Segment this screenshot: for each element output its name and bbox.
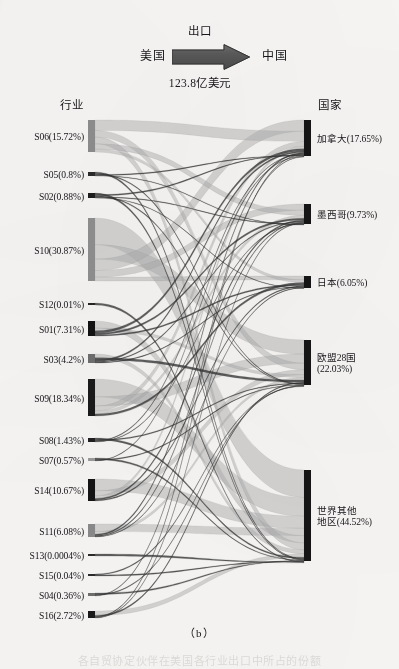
- node-label-ROW-line2: 地区(44.52%): [317, 516, 372, 528]
- column-header-industry: 行业: [60, 96, 84, 112]
- sankey-link: [95, 176, 304, 226]
- sankey-link: [95, 561, 304, 595]
- flow-type-label: 出口: [0, 22, 399, 38]
- node-label-ROW-line1: 世界其他: [317, 504, 372, 516]
- node-label-S13: S13(0.0004%): [30, 550, 85, 561]
- sankey-node-right-CA[interactable]: [304, 120, 311, 156]
- node-label-EU: 欧盟28国(22.03%): [317, 351, 356, 374]
- sankey-node-left-S05[interactable]: [88, 172, 95, 176]
- node-label-S11: S11(6.08%): [39, 525, 84, 536]
- node-label-S14: S14(10.67%): [34, 485, 84, 496]
- node-label-S16: S16(2.72%): [39, 609, 84, 620]
- node-label-S07: S07(0.57%): [39, 454, 84, 465]
- sankey-node-left-S04[interactable]: [88, 593, 95, 596]
- node-label-S01: S01(7.31%): [39, 323, 84, 334]
- sankey-link: [95, 554, 304, 616]
- sankey-node-left-S16[interactable]: [88, 611, 95, 618]
- sankey-node-right-EU[interactable]: [304, 340, 311, 385]
- column-header-country: 国家: [318, 96, 342, 112]
- sankey-node-left-S07[interactable]: [88, 458, 95, 461]
- node-label-S08: S08(1.43%): [39, 435, 84, 446]
- origin-country-label: 美国: [140, 46, 165, 64]
- node-label-S06: S06(15.72%): [34, 131, 84, 142]
- sankey-diagram: 行业 国家 S06(15.72%)S05(0.8%)S02(0.88%)S10(…: [0, 96, 399, 636]
- sankey-node-left-S11[interactable]: [88, 524, 95, 537]
- figure-caption: （b）: [0, 624, 399, 640]
- sankey-links-group: [95, 120, 304, 618]
- node-label-S10: S10(30.87%): [34, 244, 84, 255]
- cut-off-caption-below: 各自贸协定伙伴在美国各行业出口中所占的份额: [0, 652, 399, 668]
- node-label-EU-line2: (22.03%): [317, 363, 356, 375]
- node-label-JP: 日本(6.05%): [317, 277, 367, 288]
- sankey-node-left-S06[interactable]: [88, 120, 95, 152]
- sankey-node-right-MX[interactable]: [304, 204, 311, 224]
- sankey-node-left-S02[interactable]: [88, 193, 95, 198]
- flow-amount-label: 123.8亿美元: [0, 74, 399, 90]
- node-label-S15: S15(0.04%): [39, 570, 84, 581]
- sankey-node-left-S10[interactable]: [88, 218, 95, 281]
- right-arrow-icon: [172, 44, 250, 70]
- sankey-node-right-JP[interactable]: [304, 276, 311, 288]
- sankey-node-left-S13[interactable]: [88, 554, 95, 556]
- node-label-S09: S09(18.34%): [34, 392, 84, 403]
- node-label-S05: S05(0.8%): [44, 169, 84, 180]
- sankey-node-left-S09[interactable]: [88, 379, 95, 416]
- sankey-node-right-ROW[interactable]: [304, 470, 311, 561]
- sankey-node-left-S08[interactable]: [88, 438, 95, 442]
- node-label-MX: 墨西哥(9.73%): [317, 209, 377, 220]
- node-label-S03: S03(4.2%): [44, 353, 84, 364]
- figure-header: 出口 美国 中国 123.8亿美元: [0, 0, 399, 96]
- sankey-node-left-S12[interactable]: [88, 303, 95, 305]
- sankey-node-left-S15[interactable]: [88, 574, 95, 576]
- node-label-S02: S02(0.88%): [39, 190, 84, 201]
- node-label-S04: S04(0.36%): [39, 589, 84, 600]
- node-label-S12: S12(0.01%): [39, 299, 84, 310]
- sankey-link: [95, 120, 304, 141]
- sankey-node-left-S03[interactable]: [88, 354, 95, 363]
- node-label-ROW: 世界其他地区(44.52%): [317, 504, 372, 527]
- node-label-EU-line1: 欧盟28国: [317, 351, 356, 363]
- node-label-CA: 加拿大(17.65%): [317, 133, 382, 144]
- sankey-link: [95, 156, 304, 461]
- sankey-node-left-S01[interactable]: [88, 321, 95, 336]
- sankey-node-left-S14[interactable]: [88, 479, 95, 501]
- destination-country-label: 中国: [262, 46, 287, 64]
